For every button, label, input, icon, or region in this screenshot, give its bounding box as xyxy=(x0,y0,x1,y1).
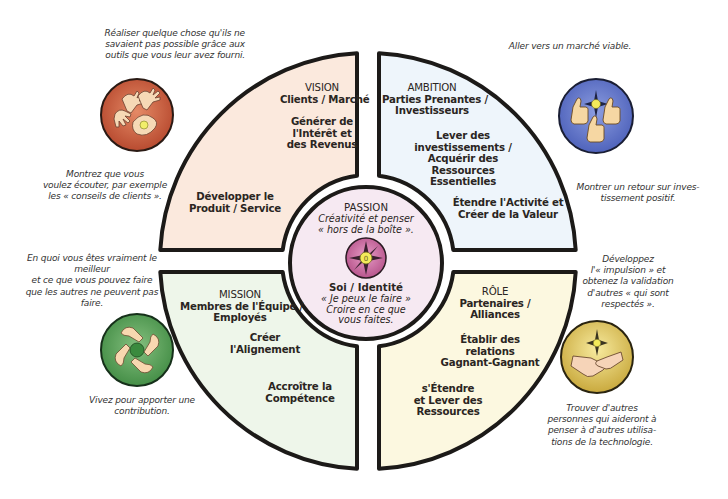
linked-arms-icon xyxy=(101,314,173,386)
note-mission-bottom: Vivez pour apporter une contribution. xyxy=(82,395,202,417)
note-vision-bottom: Montrez que vous voulez écouter, par exe… xyxy=(35,169,175,203)
mission-action: Accroître la Compétence xyxy=(255,381,345,404)
thumbs-up-icon xyxy=(559,79,633,153)
svg-text:0: 0 xyxy=(364,255,368,263)
vision-action: Développer le Produit / Service xyxy=(185,191,285,214)
role-text: RÔLE Partenaires / Alliances xyxy=(455,286,535,321)
role-goal: Établir des relations Gagnant-Gagnant xyxy=(440,334,540,369)
vision-heading: VISION Clients / Marché xyxy=(280,82,364,105)
note-mission-top: En quoi vous êtes vraiment le meilleur e… xyxy=(22,253,162,309)
note-vision-top: Réaliser quelque chose qu'ils ne savaien… xyxy=(85,28,245,62)
vision-goal: Générer de l'Intérêt et des Revenus xyxy=(280,116,364,151)
handshake-icon xyxy=(561,321,633,393)
ambition-heading: AMBITION Parties Prenantes / Investisseu… xyxy=(382,82,482,117)
passion-text: PASSION Créativité et penser « hors de l… xyxy=(306,203,426,235)
ambition-goal: Lever des investissements / Acquérir des… xyxy=(408,130,518,188)
vision-text: VISION Clients / Marché Générer de l'Int… xyxy=(280,82,364,151)
note-ambition-top: Aller vers un marché viable. xyxy=(500,41,640,52)
note-ambition-bottom: Montrer un retour sur inves- tissement p… xyxy=(568,182,708,204)
note-role-top: Développez l'« impulsion » et obtenez la… xyxy=(568,254,688,310)
compass-star-icon: 0 xyxy=(346,238,386,278)
reaching-hands-icon xyxy=(101,79,173,151)
note-role-bottom: Trouver d'autres personnes qui aideront … xyxy=(537,403,667,448)
mission-goal: Créer l'Alignement xyxy=(220,332,310,355)
role-action: s'Étendre et Lever des Ressources xyxy=(408,383,488,418)
mission-text: MISSION Membres de l'Équipe / Employés xyxy=(180,289,300,324)
ambition-action: Étendre l'Activité et Créer de la Valeur xyxy=(448,197,568,220)
ambition-text: AMBITION Parties Prenantes / Investisseu… xyxy=(382,82,482,117)
identity-text: Soi / Identité « Je peux le faire » Croi… xyxy=(306,283,426,326)
